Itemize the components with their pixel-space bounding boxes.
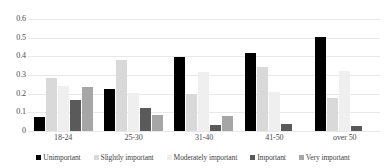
- legend-swatch-icon: [94, 155, 99, 160]
- bar: [245, 53, 256, 131]
- bar: [70, 100, 81, 131]
- bar-group: [245, 19, 304, 131]
- y-axis: 0.60.50.40.30.20.10: [0, 19, 26, 131]
- y-axis-tick-label: 0.1: [2, 108, 26, 116]
- legend-swatch-icon: [250, 155, 255, 160]
- bar: [351, 126, 362, 131]
- grouped-bar-chart: 0.60.50.40.30.20.10 18-2425-3031-4041-50…: [0, 0, 386, 168]
- legend-item[interactable]: Slightly important: [94, 153, 154, 162]
- legend-label: Slightly important: [101, 153, 154, 162]
- legend-label: Unimportant: [43, 153, 80, 162]
- gridline: [28, 131, 380, 132]
- y-axis-tick-label: 0.6: [2, 15, 26, 23]
- x-axis-tick-label: 18-24: [30, 133, 96, 143]
- bar: [339, 71, 350, 131]
- bar-group: [315, 19, 374, 131]
- y-axis-tick-label: 0.4: [2, 52, 26, 60]
- x-axis-tick-label: 25-30: [101, 133, 167, 143]
- bar-group: [104, 19, 163, 131]
- bar: [128, 93, 139, 131]
- legend-swatch-icon: [299, 155, 304, 160]
- bar: [116, 60, 127, 131]
- legend-item[interactable]: Moderately important: [167, 153, 238, 162]
- x-axis: 18-2425-3031-4041-50over 50: [28, 133, 380, 147]
- chart-legend: UnimportantSlightly importantModerately …: [0, 150, 386, 164]
- bar: [34, 117, 45, 131]
- bar: [269, 92, 280, 131]
- legend-item[interactable]: Very important: [299, 153, 350, 162]
- bar: [186, 94, 197, 131]
- legend-swatch-icon: [36, 155, 41, 160]
- x-axis-tick-label: over 50: [312, 133, 378, 143]
- bar-group: [34, 19, 93, 131]
- bar: [222, 116, 233, 131]
- bar: [174, 57, 185, 131]
- bar: [315, 37, 326, 131]
- y-axis-tick-label: 0.3: [2, 71, 26, 79]
- bar: [210, 125, 221, 131]
- bars-layer: [28, 19, 380, 131]
- x-axis-tick-label: 31-40: [171, 133, 237, 143]
- y-axis-tick-label: 0.2: [2, 90, 26, 98]
- legend-swatch-icon: [167, 155, 172, 160]
- plot-area: [28, 19, 380, 131]
- legend-item[interactable]: Important: [250, 153, 286, 162]
- bar: [198, 72, 209, 131]
- bar: [58, 86, 69, 131]
- legend-item[interactable]: Unimportant: [36, 153, 80, 162]
- bar: [82, 87, 93, 131]
- bar: [327, 98, 338, 131]
- y-axis-tick-label: 0: [2, 127, 26, 135]
- y-axis-tick-label: 0.5: [2, 34, 26, 42]
- legend-label: Moderately important: [174, 153, 238, 162]
- bar: [104, 89, 115, 131]
- bar-group: [174, 19, 233, 131]
- bar: [257, 67, 268, 131]
- x-axis-tick-label: 41-50: [241, 133, 307, 143]
- bar: [152, 115, 163, 131]
- bar: [46, 78, 57, 131]
- bar: [281, 124, 292, 131]
- legend-label: Important: [257, 153, 286, 162]
- bar: [140, 108, 151, 131]
- legend-label: Very important: [306, 153, 350, 162]
